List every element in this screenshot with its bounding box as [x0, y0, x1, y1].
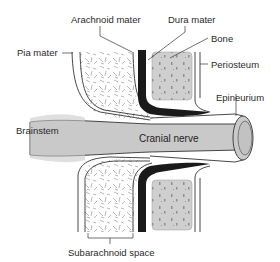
periosteum-lower	[195, 166, 210, 232]
label-periosteum: Periosteum	[211, 59, 259, 70]
label-dura-mater: Dura mater	[168, 14, 216, 25]
bone-lower	[152, 180, 192, 230]
bone-upper	[152, 52, 192, 100]
label-brainstem: Brainstem	[16, 125, 59, 136]
cranial-nerve-meninges-diagram: Arachnoid mater Dura mater Bone Pia mate…	[0, 0, 280, 262]
label-subarachnoid-space: Subarachnoid space	[68, 247, 155, 258]
label-pia-mater: Pia mater	[17, 47, 58, 58]
label-epineurium: Epineurium	[216, 92, 264, 103]
lower-subarachnoid-space	[85, 159, 140, 232]
periosteum-upper	[195, 52, 210, 112]
label-arachnoid-mater: Arachnoid mater	[71, 14, 141, 25]
label-cranial-nerve: Cranial nerve	[139, 133, 198, 144]
label-bone: Bone	[211, 33, 233, 44]
